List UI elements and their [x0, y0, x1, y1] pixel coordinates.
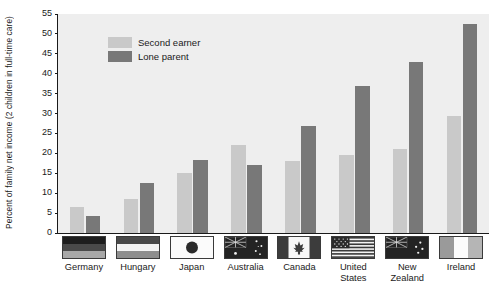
chart-figure: Percent of family net income (2 children… [0, 0, 498, 299]
bar-second-earner [177, 173, 192, 233]
flag-germany-icon [62, 236, 106, 259]
y-axis-title: Percent of family net income (2 children… [4, 16, 14, 229]
bar-second-earner [339, 155, 354, 233]
x-category-label: Hungary [111, 262, 165, 273]
y-tick-label: 55 [42, 8, 52, 19]
bar-group [381, 14, 435, 233]
bar-group [274, 14, 328, 233]
y-tick-label: 10 [42, 187, 52, 198]
y-tick-label: 45 [42, 48, 52, 59]
x-category-label: Australia [219, 262, 273, 273]
bar-lone-parent [409, 62, 424, 233]
bar-lone-parent [140, 183, 155, 233]
x-category-new-zealand: New Zealand [380, 236, 434, 283]
bar-second-earner [124, 199, 139, 233]
bar-second-earner [70, 207, 85, 233]
x-category-germany: Germany [57, 236, 111, 273]
x-category-united-states: United States [326, 236, 380, 283]
y-tick-label: 0 [47, 227, 52, 238]
legend-swatch-second-earner [108, 37, 132, 48]
x-category-label: Ireland [434, 262, 488, 273]
y-tick-label: 30 [42, 108, 52, 119]
y-tick-label: 50 [42, 28, 52, 39]
y-tick-label: 15 [42, 167, 52, 178]
x-category-label: Canada [273, 262, 327, 273]
x-category-label: United States [326, 262, 380, 283]
bar-group [327, 14, 381, 233]
y-tick-label: 40 [42, 68, 52, 79]
bar-lone-parent [355, 86, 370, 233]
x-category-ireland: Ireland [434, 236, 488, 273]
legend-label-second-earner: Second earner [138, 37, 200, 48]
flag-japan-icon [170, 236, 214, 259]
flag-hungary-icon [116, 236, 160, 259]
legend-item-second-earner: Second earner [108, 36, 200, 48]
x-category-canada: Canada [273, 236, 327, 273]
flag-united-states-icon [331, 236, 375, 259]
legend-swatch-lone-parent [108, 51, 132, 62]
legend-label-lone-parent: Lone parent [138, 51, 189, 62]
bar-lone-parent [86, 216, 101, 233]
x-category-label: Germany [57, 262, 111, 273]
flag-ireland-icon [439, 236, 483, 259]
bar-lone-parent [301, 126, 316, 234]
bar-lone-parent [463, 24, 478, 233]
plot-area: 0510152025303540455055 Second earner Lon… [57, 14, 489, 234]
x-category-hungary: Hungary [111, 236, 165, 273]
y-axis-title-wrapper: Percent of family net income (2 children… [0, 0, 18, 245]
x-category-label: New Zealand [380, 262, 434, 283]
y-tick-label: 35 [42, 88, 52, 99]
bar-second-earner [447, 116, 462, 233]
bar-lone-parent [193, 160, 208, 233]
bar-lone-parent [247, 165, 262, 233]
x-category-label: Japan [165, 262, 219, 273]
bar-second-earner [393, 149, 408, 233]
flag-canada-icon [277, 236, 321, 259]
y-tick-label: 25 [42, 127, 52, 138]
x-category-japan: Japan [165, 236, 219, 273]
bar-group [58, 14, 112, 233]
x-category-australia: Australia [219, 236, 273, 273]
flag-australia-icon [224, 236, 268, 259]
bar-second-earner [231, 145, 246, 233]
bar-second-earner [285, 161, 300, 233]
legend: Second earner Lone parent [108, 36, 200, 62]
bar-group [435, 14, 489, 233]
y-tick-label: 20 [42, 147, 52, 158]
legend-item-lone-parent: Lone parent [108, 50, 200, 62]
bar-group [220, 14, 274, 233]
y-tick-label: 5 [47, 207, 52, 218]
x-axis-categories: GermanyHungaryJapanAustraliaCanadaUnited… [57, 236, 488, 299]
flag-new-zealand-icon [385, 236, 429, 259]
